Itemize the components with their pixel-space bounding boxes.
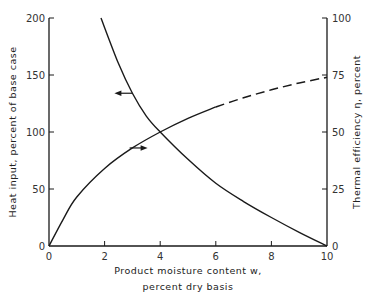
right-y-tick-label: 75 bbox=[332, 70, 345, 81]
x-tick-label: 4 bbox=[157, 251, 163, 262]
left-y-tick-label: 200 bbox=[26, 13, 45, 24]
x-tick-label: 2 bbox=[101, 251, 107, 262]
x-axis-title-line1: Product moisture content w, bbox=[114, 265, 262, 276]
labels: Product moisture content w,percent dry b… bbox=[7, 46, 362, 292]
ticks: 02468100501001502000255075100 bbox=[26, 13, 351, 263]
x-tick-label: 6 bbox=[213, 251, 219, 262]
efficiency-curve-dashed bbox=[216, 77, 327, 107]
heat-input-curve bbox=[101, 18, 327, 246]
right-y-tick-label: 0 bbox=[332, 241, 338, 252]
left-y-tick-label: 100 bbox=[26, 127, 45, 138]
axes bbox=[49, 18, 327, 246]
right-y-tick-label: 50 bbox=[332, 127, 345, 138]
x-tick-label: 8 bbox=[268, 251, 274, 262]
left-y-tick-label: 150 bbox=[26, 70, 45, 81]
x-tick-label: 0 bbox=[46, 251, 52, 262]
left-y-tick-label: 50 bbox=[32, 184, 45, 195]
right-y-tick-label: 25 bbox=[332, 184, 345, 195]
right-y-tick-label: 100 bbox=[332, 13, 351, 24]
x-axis-title-line2: percent dry basis bbox=[143, 281, 234, 292]
chart-canvas: 02468100501001502000255075100 Product mo… bbox=[0, 0, 373, 300]
curves bbox=[49, 18, 327, 246]
efficiency-curve-solid bbox=[49, 107, 216, 246]
x-tick-label: 10 bbox=[321, 251, 334, 262]
left-y-axis-title: Heat input, percent of base case bbox=[7, 46, 18, 217]
right-y-axis-title: Thermal efficiency η, percent bbox=[351, 55, 362, 210]
left-y-tick-label: 0 bbox=[39, 241, 45, 252]
